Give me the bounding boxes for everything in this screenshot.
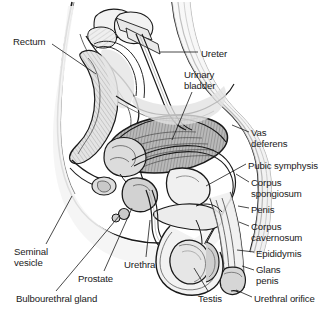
pubic-ramus (154, 204, 223, 230)
label-pubic-symphysis: Pubic symphysis (248, 160, 318, 171)
label-epididymis: Epididymis (256, 248, 301, 259)
label-corpus-spongiosum-line1: Corpus (251, 177, 281, 188)
anal-sphincter-inner (97, 181, 110, 192)
pubic-symphysis (167, 168, 210, 207)
leader-corpus-spongiosum (236, 174, 249, 182)
label-urethral-orifice: Urethral orifice (254, 293, 315, 304)
label-seminal-vesicle-line2: vesicle (14, 257, 43, 268)
label-vas-deferens-line2: deferens (251, 138, 288, 149)
label-corpus-cavernosum-line2: cavernosum (251, 232, 302, 243)
label-prostate: Prostate (78, 273, 113, 284)
label-vas-deferens-line1: Vas (251, 127, 267, 138)
prostate-group (112, 178, 157, 222)
leader-corpus-cavernosum (239, 222, 249, 226)
label-rectum: Rectum (13, 36, 45, 47)
label-penis: Penis (251, 204, 275, 215)
label-corpus-cavernosum-line1: Corpus (251, 221, 281, 232)
label-testis: Testis (198, 293, 222, 304)
anatomy-illustration (0, 0, 333, 316)
label-urethra: Urethra (124, 259, 155, 270)
prostate-gland (122, 178, 157, 212)
anatomy-figure: Rectum Ureter Urinary bladder Vas defere… (0, 0, 333, 316)
label-glans-penis-line2: penis (256, 275, 278, 286)
leader-seminal-vesicle (46, 196, 72, 244)
label-corpus-spongiosum-line2: spongiosum (251, 188, 302, 199)
label-ureter: Ureter (201, 48, 227, 59)
label-urinary-bladder-line2: bladder (184, 80, 215, 91)
label-bulbourethral-gland: Bulbourethral gland (16, 293, 97, 304)
label-glans-penis-line1: Glans (256, 264, 281, 275)
leader-pubic-symphysis (206, 164, 246, 186)
label-seminal-vesicle-line1: Seminal (14, 246, 48, 257)
leader-penis (238, 206, 249, 208)
bulbourethral-gland-second (112, 214, 120, 222)
label-urinary-bladder-line1: Urinary (184, 69, 214, 80)
seminal-vesicle (104, 138, 146, 177)
